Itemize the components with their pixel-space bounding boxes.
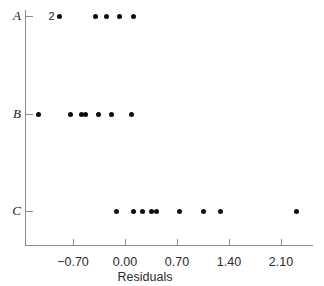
data-point — [154, 209, 159, 214]
data-point — [218, 209, 223, 214]
x-tick-label-4: 2.10 — [251, 256, 311, 269]
x-tick-2 — [177, 239, 178, 246]
data-point — [131, 14, 136, 19]
x-tick-label-2: 0.70 — [147, 256, 207, 269]
data-point — [93, 14, 98, 19]
y-axis-label-c: C — [5, 204, 21, 217]
data-point — [131, 209, 136, 214]
data-point — [201, 209, 206, 214]
data-point — [36, 112, 41, 117]
x-tick-1 — [125, 239, 126, 246]
x-axis-title-text: Residuals — [118, 271, 173, 284]
x-tick-0 — [73, 239, 74, 246]
data-point — [57, 14, 62, 19]
data-point — [83, 112, 88, 117]
y-axis-label-b: B — [5, 107, 21, 120]
x-tick-label-1: 0.00 — [95, 256, 155, 269]
data-point — [129, 112, 134, 117]
y-tick-c — [26, 211, 33, 212]
x-tick-4 — [281, 239, 282, 246]
y-axis-label-a: A — [5, 9, 21, 22]
x-axis-title: Residuals — [0, 271, 324, 284]
residuals-dot-plot: ABC −0.700.000.701.402.10 2 Residuals — [0, 0, 324, 286]
y-tick-a — [26, 16, 33, 17]
data-point — [68, 112, 73, 117]
y-tick-b — [26, 114, 33, 115]
data-point — [294, 209, 299, 214]
x-tick-label-3: 1.40 — [199, 256, 259, 269]
data-point — [117, 14, 122, 19]
x-tick-3 — [229, 239, 230, 246]
data-point — [177, 209, 182, 214]
data-point — [104, 14, 109, 19]
x-axis-line — [25, 245, 313, 246]
point-count-label: 2 — [48, 11, 56, 22]
data-point — [114, 209, 119, 214]
data-point — [140, 209, 145, 214]
data-point — [109, 112, 114, 117]
x-tick-label-0: −0.70 — [43, 256, 103, 269]
data-point — [96, 112, 101, 117]
